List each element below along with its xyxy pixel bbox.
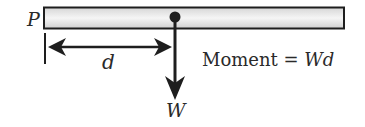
equation-word: Moment <box>202 49 279 70</box>
beam <box>44 8 344 29</box>
equation-equals: = <box>278 49 305 70</box>
moment-equation: Moment = Wd <box>202 49 334 70</box>
pivot-label: P <box>26 8 41 30</box>
distance-label: d <box>102 50 115 74</box>
equation-rhs: Wd <box>304 49 334 70</box>
force-label: W <box>166 99 187 121</box>
moment-diagram: P d W Moment = Wd <box>0 0 365 127</box>
